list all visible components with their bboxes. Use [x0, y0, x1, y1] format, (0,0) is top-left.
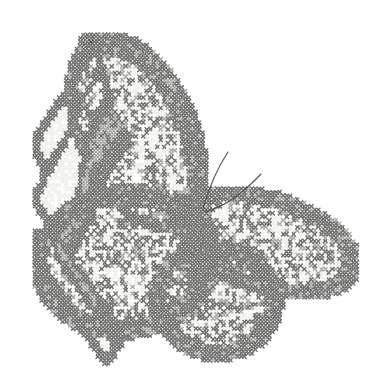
artwork-canvas: Cross-stitch Butterfly Grayscale counted…: [0, 0, 382, 384]
antennae-layer: [0, 0, 382, 384]
left-antenna-icon: [203, 152, 228, 209]
